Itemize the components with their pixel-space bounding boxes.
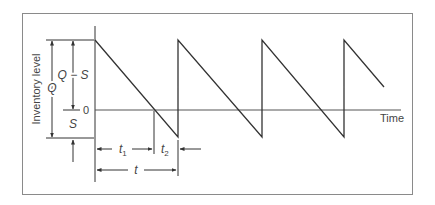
y-axis-label: Inventory level xyxy=(30,54,42,125)
inventory-sawtooth xyxy=(95,40,384,137)
q-label: Q xyxy=(47,81,56,95)
inventory-diagram: Inventory level Q Q − S 0 S Time t1 t2 t xyxy=(0,0,435,205)
t2-label: t2 xyxy=(161,142,169,158)
t-label: t xyxy=(134,163,138,177)
s-label: S xyxy=(69,117,77,131)
zero-label: 0 xyxy=(83,104,89,116)
t1-label: t1 xyxy=(119,142,127,158)
q-minus-s-label: Q − S xyxy=(57,68,88,82)
time-axis-label: Time xyxy=(380,112,404,124)
